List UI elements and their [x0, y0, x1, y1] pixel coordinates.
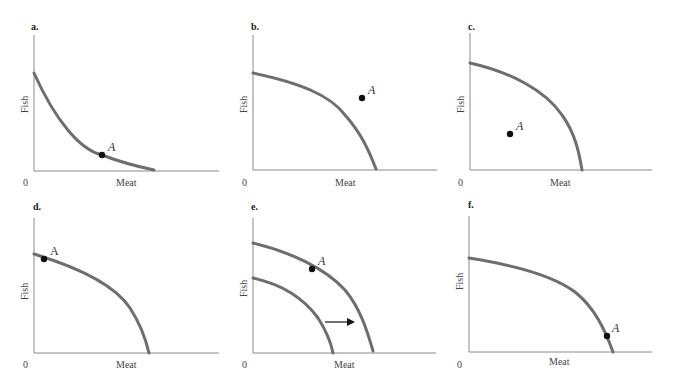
point-label: A	[107, 140, 116, 154]
panel-e: e. A 0 Meat Fish	[238, 201, 436, 370]
curve-ppf-outer	[253, 243, 373, 351]
origin-label: 0	[242, 359, 247, 370]
x-axis-label: Meat	[334, 359, 355, 370]
y-axis-label: Fish	[238, 280, 249, 297]
point-a	[359, 95, 365, 101]
panel-b: b. A 0 Meat Fish	[238, 21, 437, 188]
panel-label: f.	[468, 199, 474, 210]
chart-grid: a. A 0 Meat Fish b. A 0 Meat Fish c. A 0…	[0, 0, 674, 380]
point-a	[99, 152, 105, 158]
curve-ppf	[469, 258, 613, 352]
curve-ppf	[34, 254, 149, 353]
x-axis-label: Meat	[335, 177, 356, 188]
panel-label: a.	[31, 21, 39, 32]
y-axis-label: Fish	[455, 96, 466, 113]
point-a	[604, 333, 610, 339]
origin-label: 0	[458, 177, 463, 188]
panel-label: e.	[251, 201, 258, 212]
y-axis-label: Fish	[454, 273, 465, 290]
origin-label: 0	[23, 177, 28, 188]
x-axis-label: Meat	[116, 177, 137, 188]
curve-ppf	[470, 63, 582, 170]
panel-label: c.	[468, 21, 475, 32]
point-a	[309, 266, 315, 272]
panel-d: d. A 0 Meat Fish	[19, 201, 219, 370]
axes	[34, 218, 219, 353]
curve-ppf-inner	[253, 278, 333, 353]
curve-convex	[34, 73, 154, 170]
x-axis-label: Meat	[549, 356, 570, 367]
x-axis-label: Meat	[550, 177, 571, 188]
y-axis-label: Fish	[19, 283, 30, 300]
point-label: A	[50, 244, 59, 258]
x-axis-label: Meat	[116, 359, 137, 370]
origin-label: 0	[242, 177, 247, 188]
point-label: A	[367, 83, 376, 97]
axes	[34, 35, 219, 171]
origin-label: 0	[457, 359, 462, 370]
panel-c: c. A 0 Meat Fish	[455, 21, 652, 188]
axes	[470, 33, 652, 170]
panel-f: f. A 0 Meat Fish	[454, 199, 652, 370]
point-a	[507, 131, 513, 137]
origin-label: 0	[23, 359, 28, 370]
curve-ppf	[253, 73, 376, 169]
panel-a: a. A 0 Meat Fish	[19, 21, 219, 188]
point-label: A	[611, 321, 620, 335]
point-a	[41, 256, 47, 262]
point-label: A	[317, 254, 326, 268]
y-axis-label: Fish	[238, 96, 249, 113]
y-axis-label: Fish	[19, 96, 30, 113]
point-label: A	[515, 119, 524, 133]
arrow-head-icon	[347, 318, 355, 326]
axes	[253, 35, 437, 170]
panel-label: d.	[33, 201, 42, 212]
panel-label: b.	[251, 21, 260, 32]
